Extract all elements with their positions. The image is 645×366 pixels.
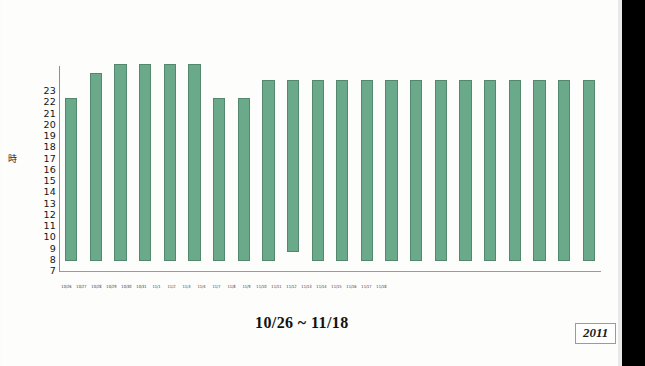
x-tick-label: 11/3 [179,284,195,289]
bar-chart: 時 2322212019181716151413121110987 10/261… [0,0,618,366]
bar [558,80,570,261]
y-tick-label: 11 [44,221,57,231]
bar [484,80,496,261]
bar [410,80,422,261]
y-tick-label: 13 [44,199,57,209]
x-tick-label: 11/1 [149,284,165,289]
bar [213,98,225,261]
y-axis-title: 時 [8,155,17,164]
bar [164,64,176,262]
x-tick-label: 10/27 [74,284,90,289]
x-tick-label: 11/2 [164,284,180,289]
y-tick-label: 14 [44,187,57,197]
x-tick-label: 10/26 [59,284,75,289]
y-tick-label: 12 [44,210,57,220]
x-axis-tick-labels: 10/2610/2710/2810/2910/3010/3111/111/211… [59,285,389,297]
bar [336,80,348,261]
scan-gutter [622,0,645,366]
x-tick-label: 11/13 [299,284,315,289]
chart-title: 10/26 ~ 11/18 [255,314,349,332]
y-tick-label: 19 [44,131,57,141]
scanned-page: 時 2322212019181716151413121110987 10/261… [0,0,645,366]
x-tick-label: 11/12 [284,284,300,289]
x-tick-label: 11/18 [374,284,390,289]
bar [188,64,200,262]
bar [238,98,250,261]
bar [533,80,545,261]
y-tick-label: 9 [50,244,56,254]
y-axis-tick-labels: 2322212019181716151413121110987 [30,86,56,276]
x-tick-label: 11/7 [209,284,225,289]
bar [90,73,102,261]
y-tick-label: 23 [44,86,57,96]
bar [312,80,324,261]
x-tick-label: 10/28 [89,284,105,289]
x-tick-label: 11/16 [344,284,360,289]
y-tick-label: 16 [44,165,57,175]
y-tick-label: 17 [44,154,57,164]
bar [65,98,77,261]
x-tick-label: 11/11 [269,284,285,289]
y-tick-label: 20 [44,120,57,130]
x-tick-label: 10/29 [104,284,120,289]
bar [139,64,151,262]
y-tick-label: 7 [50,266,56,276]
x-tick-label: 10/30 [119,284,135,289]
bar [459,80,471,261]
year-badge: 2011 [575,323,616,344]
x-tick-label: 11/17 [359,284,375,289]
bar [509,80,521,261]
y-tick-label: 18 [44,142,57,152]
plot-area [59,60,601,272]
x-tick-label: 11/10 [254,284,270,289]
y-tick-label: 15 [44,176,57,186]
y-tick-label: 22 [44,97,57,107]
bar [361,80,373,261]
bar [435,80,447,261]
y-tick-label: 10 [44,232,57,242]
bar [287,80,299,252]
x-tick-label: 11/8 [224,284,240,289]
x-tick-label: 10/31 [134,284,150,289]
bar [262,80,274,261]
x-tick-label: 11/4 [194,284,210,289]
x-tick-label: 11/14 [314,284,330,289]
bar [583,80,595,261]
bar [114,64,126,262]
x-tick-label: 11/9 [239,284,255,289]
x-tick-label: 11/15 [329,284,345,289]
y-tick-label: 8 [50,255,56,265]
y-tick-label: 21 [44,109,57,119]
bar [385,80,397,261]
